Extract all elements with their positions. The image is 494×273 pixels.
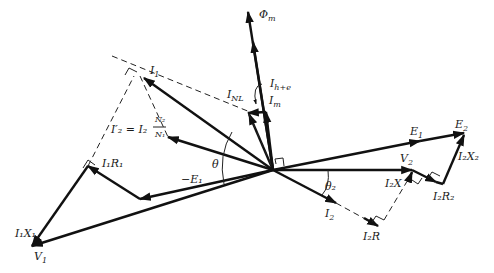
label-theta2: θ₂ (325, 180, 336, 193)
label-i1r1: I₁R₁ (101, 157, 123, 170)
label-v1: V1 (34, 250, 47, 265)
right-angle-marker (428, 172, 440, 178)
label-e1: E1 (409, 125, 423, 140)
i2r-marker (364, 218, 378, 226)
label-i2r: I₂R (362, 230, 380, 243)
right-angle-marker (412, 178, 422, 184)
e2-phasor (420, 133, 464, 141)
label-i2-prime: I′₂ = I₂ (110, 123, 147, 136)
neg-e1-phasor (140, 170, 273, 199)
i2-prime-phasor (168, 137, 273, 170)
label-i2x: I₂X (384, 177, 403, 190)
i1x1-phasor (32, 166, 88, 246)
phasor-diagram: Φm Ih+e Im INL I1 I′₂ = I₂ N₂ N₁ I₁R₁ −E… (0, 0, 494, 273)
e1-phasor (273, 141, 420, 170)
label-v2: V2 (400, 152, 413, 167)
v1-phasor (32, 170, 273, 246)
label-i2x2: I₂X₂ (457, 150, 479, 163)
label-i2-prime-num: N₂ (154, 115, 165, 124)
label-neg-e1: −E₁ (181, 173, 203, 186)
right-angle-marker (275, 158, 284, 166)
i2x-phasor (408, 172, 412, 182)
i1r1-phasor (88, 166, 140, 199)
label-i2: I2 (324, 207, 334, 222)
label-i1x1: I₁X₁ (14, 227, 36, 240)
v1-dashed-guide (88, 76, 134, 166)
label-e2: E2 (454, 118, 468, 133)
label-i-he: Ih+e (269, 77, 291, 92)
label-i2-prime-den: N₁ (154, 130, 165, 139)
i-he-phasor (248, 112, 266, 113)
label-i-m: Im (268, 94, 281, 109)
label-phi-m: Φm (259, 8, 276, 23)
right-angle-marker (125, 68, 137, 75)
label-i1: I1 (149, 64, 159, 79)
label-theta: θ (212, 158, 219, 171)
right-angle-marker (372, 216, 384, 222)
label-i2r2: I₂R₂ (432, 190, 454, 203)
label-i-nl: INL (226, 88, 244, 103)
